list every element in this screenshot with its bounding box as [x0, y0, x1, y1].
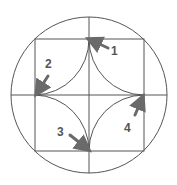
arc-top-left	[35, 39, 89, 95]
arrow-2	[39, 76, 48, 90]
diagram-canvas: 1 2 3 4	[0, 0, 177, 185]
arrow-1	[93, 41, 108, 48]
label-1: 1	[111, 44, 118, 58]
arrow-4	[135, 101, 141, 115]
label-2: 2	[45, 57, 52, 71]
arc-bottom-right	[89, 95, 144, 151]
arrow-3	[70, 135, 85, 147]
label-4: 4	[124, 121, 131, 135]
label-3: 3	[57, 125, 64, 139]
